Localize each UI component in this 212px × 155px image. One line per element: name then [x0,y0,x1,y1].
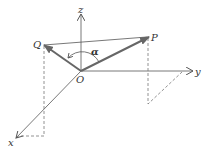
qp-segment [44,37,147,45]
vector-oq [44,45,81,71]
y-axis-label: y [194,66,201,77]
angle-label: α [91,46,99,57]
x-axis [16,71,81,138]
origin-label: O [76,74,84,85]
point-p-label: P [150,32,158,43]
vector-diagram: z y x O Q P α [0,0,212,155]
z-axis-label: z [77,4,84,15]
point-q-label: Q [33,39,41,50]
x-axis-label: x [8,137,14,148]
